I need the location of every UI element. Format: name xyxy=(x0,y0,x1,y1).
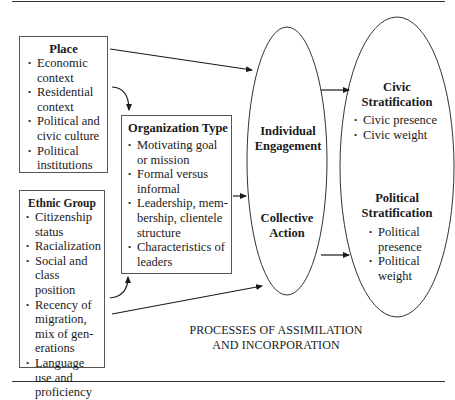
organization-type-item: Motivating goal or mission xyxy=(128,138,229,167)
arrow-place-to-engagement xyxy=(110,49,252,70)
processes-caption-line2: AND INCORPORATION xyxy=(170,338,382,353)
political-stratification-title: Political Stratification xyxy=(360,191,434,221)
organization-type-item: Characteristics of leaders xyxy=(128,240,229,269)
organization-type-item: Leadership, mem-bership, clientele struc… xyxy=(128,196,229,240)
engagement-ellipse xyxy=(247,27,327,295)
ethnic-group-item: Citizenship status xyxy=(26,210,102,239)
collective-action-label: Collective Action xyxy=(252,211,322,241)
organization-type-title: Organization Type xyxy=(128,121,229,135)
civic-item: Civic weight xyxy=(354,128,454,143)
processes-caption-line1: PROCESSES OF ASSIMILATION xyxy=(170,323,382,338)
place-item: Political institutions xyxy=(28,144,103,173)
place-title: Place xyxy=(28,42,103,56)
individual-engagement-label: Individual Engagement xyxy=(250,124,326,154)
political-item: Political weight xyxy=(369,254,431,283)
political-item: Political presence xyxy=(369,225,431,254)
ethnic-group-item: Recency of migration, mix of gen-eration… xyxy=(26,298,102,356)
ethnic-group-list: Citizenship status Racialization Social … xyxy=(26,210,102,400)
place-item: Political and civic culture xyxy=(28,114,103,143)
place-box: Place Economic context Residential conte… xyxy=(19,36,108,173)
ethnic-group-item: Racialization xyxy=(26,239,102,254)
organization-type-box: Organization Type Motivating goal or mis… xyxy=(121,115,232,274)
ethnic-group-item: Social and class position xyxy=(26,254,102,298)
processes-caption: PROCESSES OF ASSIMILATION AND INCORPORAT… xyxy=(170,323,382,353)
civic-stratification-list: Civic presence Civic weight xyxy=(354,113,454,142)
political-stratification-list: Political presence Political weight xyxy=(369,225,431,283)
place-item: Residential context xyxy=(28,85,103,114)
arrow-ethnic-to-engagement xyxy=(112,286,262,314)
place-item: Economic context xyxy=(28,56,103,85)
ethnic-group-title: Ethnic Group xyxy=(26,196,102,210)
arrow-place-to-organization xyxy=(112,87,129,110)
ethnic-group-box: Ethnic Group Citizenship status Racializ… xyxy=(19,190,105,368)
place-list: Economic context Residential context Pol… xyxy=(28,56,103,173)
organization-type-item: Formal versus informal xyxy=(128,167,229,196)
arrow-ethnic-to-organization xyxy=(110,277,128,298)
civic-stratification-title: Civic Stratification xyxy=(360,80,434,110)
ethnic-group-item: Language use and proficiency xyxy=(26,356,102,400)
civic-item: Civic presence xyxy=(354,113,454,128)
organization-type-list: Motivating goal or mission Formal versus… xyxy=(128,138,229,269)
